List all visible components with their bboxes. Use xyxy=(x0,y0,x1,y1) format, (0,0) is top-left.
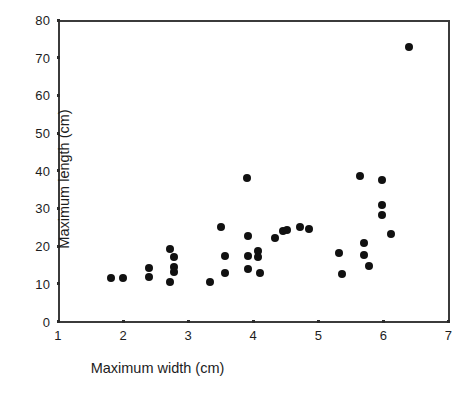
data-point xyxy=(244,232,252,240)
data-point xyxy=(256,269,264,277)
y-tick-label: 40 xyxy=(20,163,50,178)
x-tick-label: 2 xyxy=(119,328,126,343)
y-tick-label: 10 xyxy=(20,276,50,291)
data-point xyxy=(338,270,346,278)
data-point xyxy=(335,249,343,257)
data-point xyxy=(217,223,225,231)
data-point xyxy=(271,234,279,242)
x-tick-label: 1 xyxy=(54,328,61,343)
data-point xyxy=(378,201,386,209)
data-point xyxy=(221,252,229,260)
x-axis-title: Maximum width (cm) xyxy=(58,360,449,376)
y-tick-label: 60 xyxy=(20,88,50,103)
y-tick-label: 20 xyxy=(20,239,50,254)
y-tick-label: 0 xyxy=(20,314,50,329)
data-point xyxy=(166,278,174,286)
y-tick-label: 80 xyxy=(20,13,50,28)
x-tick-label: 4 xyxy=(250,328,257,343)
scatter-plot-figure: 01020304050607080 1234567 Maximum width … xyxy=(0,0,466,393)
data-point xyxy=(365,262,373,270)
data-point xyxy=(405,43,413,51)
data-point xyxy=(296,223,304,231)
x-tick-label: 5 xyxy=(315,328,322,343)
plot-data-area xyxy=(58,20,449,322)
data-point xyxy=(119,274,127,282)
data-point xyxy=(145,264,153,272)
data-point xyxy=(254,253,262,261)
data-point xyxy=(243,174,251,182)
x-tick-label: 3 xyxy=(184,328,191,343)
x-axis-title-text: Maximum width (cm) xyxy=(91,360,225,376)
data-point xyxy=(387,230,395,238)
data-point xyxy=(244,265,252,273)
y-tick-label: 30 xyxy=(20,201,50,216)
data-point xyxy=(206,278,214,286)
data-point xyxy=(378,176,386,184)
data-point xyxy=(305,225,313,233)
data-point xyxy=(360,239,368,247)
x-tick-label: 6 xyxy=(380,328,387,343)
y-tick-label: 50 xyxy=(20,126,50,141)
data-point xyxy=(221,269,229,277)
data-point xyxy=(107,274,115,282)
data-point xyxy=(378,211,386,219)
y-axis-title: Maximum length (cm) xyxy=(56,49,72,309)
data-point xyxy=(166,245,174,253)
x-tick-label: 7 xyxy=(445,328,452,343)
y-tick-label: 70 xyxy=(20,50,50,65)
data-point xyxy=(145,273,153,281)
data-point xyxy=(170,268,178,276)
data-point xyxy=(360,251,368,259)
data-point xyxy=(356,172,364,180)
data-point xyxy=(244,252,252,260)
data-point xyxy=(170,253,178,261)
data-point xyxy=(283,226,291,234)
